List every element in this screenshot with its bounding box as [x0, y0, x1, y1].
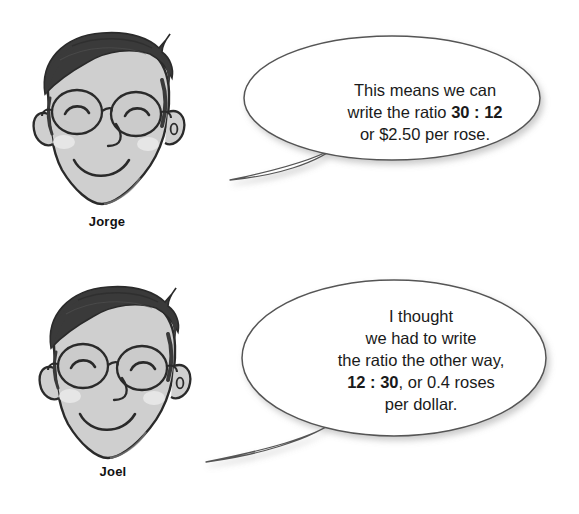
- character-joel: Joel: [18, 272, 208, 502]
- bubble-line: write the ratio 30 : 12: [310, 102, 540, 124]
- speech-bubble-joel: I thought we had to write the ratio the …: [196, 272, 556, 477]
- cartoon-face-with-glasses-icon: [18, 272, 208, 472]
- bubble-line: 12 : 30, or 0.4 roses: [301, 372, 541, 394]
- bubble-line: This means we can: [310, 80, 540, 102]
- speech-bubble-text-jorge: This means we can write the ratio 30 : 1…: [310, 80, 540, 146]
- bubble-line: the ratio the other way,: [301, 350, 541, 372]
- bubble-line: or $2.50 per rose.: [310, 124, 540, 146]
- illustration-page: Jorge This means we can write the ratio …: [0, 0, 579, 514]
- speech-bubble-jorge: This means we can write the ratio 30 : 1…: [222, 30, 552, 200]
- bubble-line: per dollar.: [301, 394, 541, 416]
- bubble-line: we had to write: [301, 328, 541, 350]
- speech-bubble-text-joel: I thought we had to write the ratio the …: [301, 306, 541, 416]
- character-jorge: Jorge: [12, 18, 202, 248]
- cartoon-face-with-glasses-icon: [12, 18, 202, 218]
- bubble-line: I thought: [301, 306, 541, 328]
- character-name-label: Jorge: [12, 214, 202, 229]
- character-name-label: Joel: [18, 464, 208, 479]
